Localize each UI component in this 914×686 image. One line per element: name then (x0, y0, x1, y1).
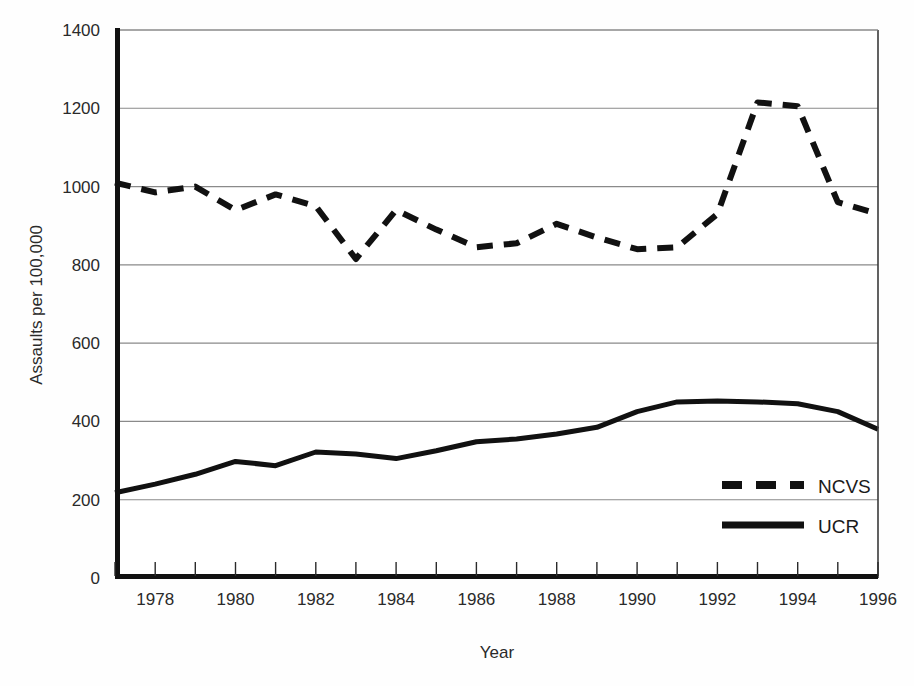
x-tick-label-1986: 1986 (457, 590, 495, 609)
x-tick-label-1988: 1988 (538, 590, 576, 609)
x-tick-label-1992: 1992 (698, 590, 736, 609)
y-tick-label-1200: 1200 (62, 99, 100, 118)
x-tick-label-1980: 1980 (217, 590, 255, 609)
y-tick-label-1400: 1400 (62, 21, 100, 40)
plot-area-background (115, 30, 878, 578)
x-tick-label-1978: 1978 (136, 590, 174, 609)
x-tick-label-1984: 1984 (377, 590, 415, 609)
x-axis-tick-labels: 1978198019821984198619881990199219941996 (136, 590, 897, 609)
y-tick-label-200: 200 (72, 491, 100, 510)
y-tick-label-800: 800 (72, 256, 100, 275)
x-axis-title: Year (480, 643, 515, 662)
x-tick-label-1982: 1982 (297, 590, 335, 609)
y-axis-title: Assaults per 100,000 (27, 225, 46, 385)
legend-label-ucr: UCR (818, 516, 859, 537)
x-tick-label-1990: 1990 (618, 590, 656, 609)
y-tick-label-1000: 1000 (62, 178, 100, 197)
x-tick-label-1996: 1996 (859, 590, 897, 609)
legend-label-ncvs: NCVS (818, 476, 871, 497)
assaults-line-chart: 0200400600800100012001400 19781980198219… (0, 0, 914, 686)
y-tick-label-400: 400 (72, 412, 100, 431)
x-tick-label-1994: 1994 (779, 590, 817, 609)
y-tick-label-600: 600 (72, 334, 100, 353)
chart-figure: 0200400600800100012001400 19781980198219… (0, 0, 914, 686)
y-tick-label-0: 0 (91, 569, 100, 588)
y-axis-tick-labels: 0200400600800100012001400 (62, 21, 100, 588)
